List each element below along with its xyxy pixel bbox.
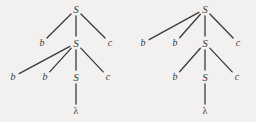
tree-node-terminal-b: b: [173, 38, 178, 48]
tree-node-terminal-b: b: [173, 72, 178, 82]
tree-edge: [210, 14, 233, 38]
tree-node-terminal-c: c: [236, 38, 240, 48]
tree-node-nonterminal-s: S: [202, 4, 208, 15]
tree-node-terminal-c: c: [235, 72, 239, 82]
right-tree-edges: [0, 0, 256, 122]
tree-edge: [210, 48, 232, 72]
right-parse-tree: SbbScbScλ: [0, 0, 256, 122]
tree-node-lambda-λ: λ: [203, 106, 208, 116]
tree-edge: [149, 12, 199, 39]
tree-node-terminal-b: b: [141, 38, 146, 48]
tree-node-nonterminal-s: S: [202, 72, 208, 83]
tree-edge: [180, 14, 201, 38]
parse-tree-figure: SbScbbScλ SbbScbScλ: [0, 0, 256, 122]
tree-edge: [180, 48, 201, 72]
tree-node-nonterminal-s: S: [202, 38, 208, 49]
